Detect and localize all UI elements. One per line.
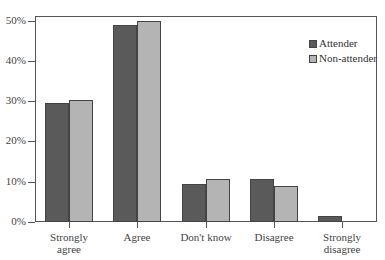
x-tick-label: Stronglydisagree <box>307 231 377 255</box>
legend-item-non-attender: Non-attender <box>309 51 377 66</box>
legend-swatch-attender <box>309 40 317 48</box>
y-tick <box>28 141 35 142</box>
bar-non-attender <box>69 100 93 222</box>
y-tick-label: 50% <box>0 15 26 26</box>
bar-attender <box>182 184 206 222</box>
bar-attender <box>318 216 342 222</box>
legend: Attender Non-attender <box>309 36 377 66</box>
bar-non-attender <box>206 179 230 222</box>
y-tick <box>28 101 35 102</box>
bar-attender <box>45 103 69 222</box>
x-tick <box>206 222 207 228</box>
y-tick-label: 0% <box>0 216 26 227</box>
y-tick-label: 10% <box>0 176 26 187</box>
x-tick <box>69 222 70 228</box>
x-tick-label: Agree <box>102 231 172 243</box>
y-tick <box>28 21 35 22</box>
x-tick-label: Stronglyagree <box>34 231 104 255</box>
legend-swatch-non-attender <box>309 55 317 63</box>
y-tick <box>28 182 35 183</box>
legend-label: Attender <box>319 36 357 51</box>
y-tick-label: 20% <box>0 135 26 146</box>
bar-non-attender <box>274 186 298 222</box>
x-tick <box>342 222 343 228</box>
x-tick-label: Disagree <box>239 231 309 243</box>
legend-label: Non-attender <box>319 51 377 66</box>
y-tick-label: 40% <box>0 55 26 66</box>
x-tick <box>137 222 138 228</box>
legend-item-attender: Attender <box>309 36 377 51</box>
y-tick <box>28 61 35 62</box>
x-tick <box>274 222 275 228</box>
y-tick <box>28 222 35 223</box>
bar-attender <box>113 25 137 222</box>
y-tick-label: 30% <box>0 95 26 106</box>
bar-non-attender <box>137 21 161 222</box>
x-tick-label: Don't know <box>171 231 241 243</box>
bar-attender <box>250 179 274 222</box>
